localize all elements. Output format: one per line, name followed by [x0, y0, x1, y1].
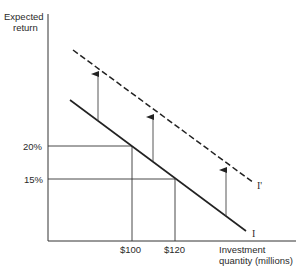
y-axis-label-line1: Expected [4, 11, 44, 22]
y-tick-20: 20% [23, 141, 43, 152]
curve-I-prime-label: I' [257, 180, 262, 191]
x-tick-120: $120 [164, 244, 185, 255]
curve-I [70, 100, 246, 231]
x-axis-label-line2: quantity (millions) [219, 255, 293, 266]
curve-I-label: I [252, 228, 255, 239]
investment-demand-chart: Expected return 20% 15% $100 $120 Invest… [0, 0, 305, 274]
y-axis-label-line2: return [13, 22, 38, 33]
x-tick-100: $100 [120, 244, 141, 255]
y-tick-15: 15% [24, 174, 44, 185]
x-axis-label-line1: Investment [219, 244, 266, 255]
curve-I-prime [73, 50, 254, 183]
